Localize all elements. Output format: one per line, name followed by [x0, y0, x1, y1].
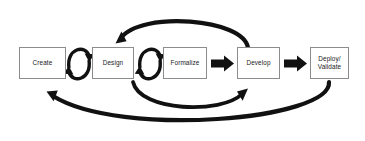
- node-formalize[interactable]: Formalize: [163, 47, 207, 79]
- feedback-arc-outer-bottom: [47, 82, 330, 120]
- cycle-create-design-bottom-arc: [69, 60, 89, 79]
- node-create[interactable]: Create: [19, 47, 66, 79]
- cycle-create-design-top-arc: [69, 49, 89, 68]
- feedback-arc-inner-bottom: [133, 82, 248, 107]
- block-arrow-develop-deploy-shape: [284, 56, 307, 72]
- node-design-label: Design: [103, 59, 124, 67]
- cycle-design-formalize-bottom-arc: [140, 60, 160, 79]
- feedback-arc-inner-bottom-path: [133, 82, 242, 107]
- node-develop-label: Develop: [246, 59, 270, 67]
- feedback-arc-outer-bottom-path: [53, 82, 329, 120]
- node-design[interactable]: Design: [92, 47, 134, 79]
- cycle-design-formalize-bottom-arrowhead: [135, 66, 145, 75]
- cycle-design-formalize-top-arc: [140, 49, 160, 68]
- node-deploy-validate[interactable]: Deploy/ Validate: [310, 47, 349, 79]
- block-arrow-develop-deploy: [284, 56, 307, 72]
- block-arrow-formalize-develop: [211, 56, 234, 72]
- node-deploy-validate-label: Deploy/ Validate: [318, 55, 341, 71]
- feedback-arc-top-path: [121, 21, 248, 48]
- feedback-arc-top: [116, 21, 249, 48]
- node-formalize-label: Formalize: [171, 59, 200, 67]
- node-develop[interactable]: Develop: [237, 47, 280, 79]
- node-create-label: Create: [33, 59, 53, 67]
- block-arrow-formalize-develop-shape: [211, 56, 234, 72]
- process-flow-diagram: Create Design Formalize Develop Deploy/ …: [0, 0, 365, 141]
- cycle-design-formalize: [135, 49, 165, 79]
- cycle-create-design: [64, 49, 94, 79]
